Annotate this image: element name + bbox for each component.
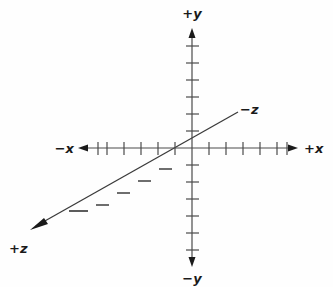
z-axis-line (36, 112, 238, 226)
axis-label-plus-z: +z (9, 241, 28, 256)
axis-label-plus-y: +y (182, 6, 202, 21)
x-axis-group (78, 142, 298, 155)
z-axis-ticks (69, 169, 172, 211)
coordinate-axes-diagram: +y −y +x −x +z −z (0, 0, 333, 287)
z-axis-group (30, 112, 238, 230)
axes-canvas: +y −y +x −x +z −z (0, 0, 333, 287)
axis-label-minus-x: −x (55, 141, 75, 156)
x-axis-positive-arrowhead (288, 145, 298, 152)
y-axis-negative-arrowhead (189, 257, 196, 267)
x-axis-negative-arrowhead (78, 145, 88, 152)
axis-label-minus-z: −z (240, 102, 259, 117)
axis-label-plus-x: +x (304, 141, 324, 156)
axis-label-minus-y: −y (182, 271, 202, 286)
z-axis-positive-arrowhead (30, 218, 48, 230)
y-axis-positive-arrowhead (189, 28, 196, 38)
